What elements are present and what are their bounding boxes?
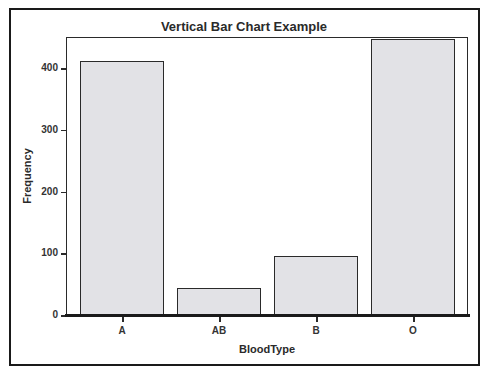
x-tick-label: B — [296, 325, 336, 336]
x-tick-label: A — [102, 325, 142, 336]
bar-a — [80, 61, 164, 315]
x-tick — [316, 317, 318, 322]
clipped-caption-strip — [0, 0, 488, 4]
y-tick — [61, 253, 66, 255]
y-tick-label: 400 — [24, 62, 58, 73]
bar-b — [274, 256, 358, 315]
y-tick — [61, 192, 66, 194]
y-tick — [61, 130, 66, 132]
bar-o — [371, 39, 455, 315]
chart-title: Vertical Bar Chart Example — [0, 19, 488, 34]
y-tick-label: 100 — [24, 247, 58, 258]
x-tick — [122, 317, 124, 322]
x-tick — [413, 317, 415, 322]
x-axis-title: BloodType — [66, 343, 468, 355]
x-tick — [219, 317, 221, 322]
x-tick-label: O — [393, 325, 433, 336]
bar-ab — [177, 288, 261, 315]
x-axis-line — [65, 314, 470, 317]
y-tick-label: 300 — [24, 124, 58, 135]
y-axis-title: Frequency — [21, 148, 33, 204]
y-tick-label: 0 — [24, 309, 58, 320]
y-tick — [61, 68, 66, 70]
x-tick-label: AB — [199, 325, 239, 336]
